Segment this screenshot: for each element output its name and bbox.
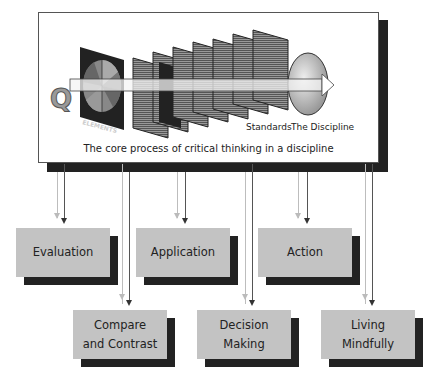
arrowhead-icon (119, 294, 125, 300)
outcome-living-mindfully: LivingMindfully (321, 310, 415, 359)
arrowhead-icon (182, 218, 188, 224)
outcome-action: Action (258, 228, 352, 277)
standards-label: Standards (246, 122, 292, 132)
outcome-label-line: and Contrast (83, 335, 157, 354)
outcome-label-line: Mindfully (342, 335, 394, 354)
arrowhead-icon (61, 218, 67, 224)
outcome-label-line: Compare (83, 316, 157, 335)
discipline-label: The Discipline (290, 122, 355, 132)
panel-caption: The core process of critical thinking in… (38, 143, 379, 154)
outcome-decision-making: DecisionMaking (197, 310, 291, 359)
connector-line (252, 164, 253, 302)
outcome-label-line: Decision (220, 316, 269, 335)
connector-line (129, 172, 130, 302)
outcome-compare-contrast: Compareand Contrast (73, 310, 167, 359)
arrowhead-icon (249, 300, 255, 306)
arrowhead-icon (126, 300, 132, 306)
outcome-evaluation: Evaluation (16, 228, 110, 277)
connector-line (185, 172, 186, 220)
arrowhead-icon (174, 213, 180, 219)
outcome-label-line: Making (220, 335, 269, 354)
question-q-icon: Q (50, 84, 72, 114)
connector-line (307, 172, 308, 220)
outcome-label: Application (151, 243, 215, 262)
process-illustration: ELEMENTS Q Standards The Discipline (38, 12, 380, 163)
connector-line (365, 164, 366, 304)
arrowhead-icon (54, 213, 60, 219)
connector-line (245, 172, 246, 304)
connector-line (372, 164, 373, 302)
outcome-label: Evaluation (33, 243, 94, 262)
arrowhead-icon (295, 213, 301, 219)
connector-line (64, 164, 65, 220)
arrowhead-icon (304, 218, 310, 224)
arrowhead-icon (362, 294, 368, 300)
outcome-label-line: Living (342, 316, 394, 335)
connector-line (177, 172, 178, 218)
connector-line (122, 164, 123, 304)
connector-line (57, 172, 58, 218)
arrowhead-icon (369, 300, 375, 306)
connector-line (298, 172, 299, 218)
outcome-label: Action (287, 243, 323, 262)
outcome-application: Application (136, 228, 230, 277)
arrowhead-icon (242, 294, 248, 300)
